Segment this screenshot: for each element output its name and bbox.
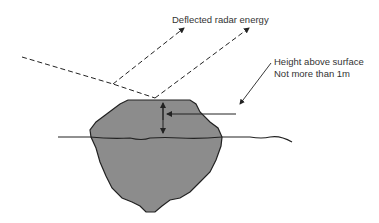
iceberg-radar-diagram: Deflected radar energy Height above surf… — [0, 0, 379, 223]
incident-radar-ray — [22, 57, 155, 98]
iceberg-shape — [90, 100, 222, 212]
height-label-line2: Not more than 1m — [274, 68, 350, 79]
deflected-energy-label: Deflected radar energy — [172, 14, 269, 25]
diagram-canvas — [0, 0, 379, 223]
deflected-ray-2 — [155, 28, 249, 98]
deflected-ray-1 — [113, 28, 184, 84]
height-label-line1: Height above surface — [274, 56, 364, 67]
label-leader-arrow — [240, 63, 271, 104]
